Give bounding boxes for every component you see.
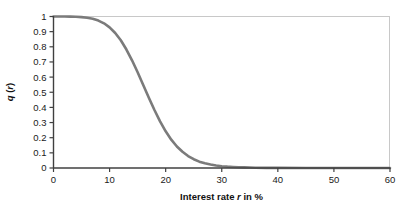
chart-background xyxy=(0,0,411,209)
x-tick-label: 40 xyxy=(273,174,284,185)
y-tick-label: 0.2 xyxy=(33,132,46,143)
y-tick-label: 0.9 xyxy=(33,26,46,37)
y-tick-label: 0.6 xyxy=(33,72,46,83)
x-tick-label: 50 xyxy=(329,174,340,185)
x-tick-label: 20 xyxy=(160,174,171,185)
x-tick-label: 0 xyxy=(51,174,56,185)
y-tick-label: 0.1 xyxy=(33,147,46,158)
x-tick-label: 10 xyxy=(104,174,115,185)
y-tick-label: 0.5 xyxy=(33,87,46,98)
x-tick-label: 30 xyxy=(216,174,227,185)
y-tick-label: 0.4 xyxy=(33,102,46,113)
y-axis-tick-labels: 00.10.20.30.40.50.60.70.80.91 xyxy=(33,11,46,174)
y-tick-label: 0.3 xyxy=(33,117,46,128)
line-chart: 0102030405060 00.10.20.30.40.50.60.70.80… xyxy=(0,0,411,209)
x-tick-label: 60 xyxy=(385,174,396,185)
x-axis-title: Interest rate r in % xyxy=(180,191,263,202)
y-tick-label: 0.8 xyxy=(33,41,46,52)
y-tick-label: 0 xyxy=(41,162,46,173)
y-tick-label: 0.7 xyxy=(33,56,46,67)
chart-container: 0102030405060 00.10.20.30.40.50.60.70.80… xyxy=(0,0,411,209)
y-axis-title: q (r) xyxy=(4,83,15,102)
y-tick-label: 1 xyxy=(41,11,46,22)
